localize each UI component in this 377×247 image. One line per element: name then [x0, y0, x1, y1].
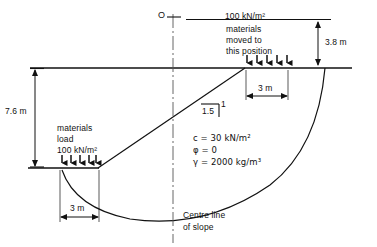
soil-unit-weight-label: γ = 2000 kg/m³	[193, 157, 261, 168]
centre-line-label-2: of slope	[183, 222, 214, 234]
soil-cohesion-label: c = 30 kN/m²	[193, 133, 251, 144]
dimension-label-7-6m: 7.6 m	[5, 106, 27, 117]
lower-surcharge-value: 100 kN/m²	[57, 145, 97, 157]
upper-note-line-1: materials	[226, 24, 261, 36]
soil-friction-angle-label: φ = 0	[193, 145, 217, 156]
upper-note-line-2: moved to	[226, 35, 262, 47]
centre-line-label-1: Centre line	[183, 210, 225, 222]
origin-label: O	[158, 10, 165, 21]
dimension-label-lower-3m: 3 m	[70, 203, 84, 214]
dimension-7-6m	[30, 69, 44, 168]
dimension-label-upper-3m: 3 m	[258, 83, 272, 94]
slope-stability-diagram: O 100 kN/m² materials moved to this posi…	[0, 0, 377, 247]
slope-ratio-vertical: 1	[221, 99, 226, 110]
upper-surcharge-value: 100 kN/m²	[225, 11, 265, 22]
slope-face-line	[98, 68, 245, 168]
lower-note-line-2: load	[57, 134, 73, 146]
lower-note-line-1: materials	[57, 123, 92, 135]
slope-ratio-horizontal: 1.5	[202, 106, 214, 117]
upper-note-line-3: this position	[226, 46, 272, 58]
dimension-label-3-8m: 3.8 m	[325, 37, 347, 48]
